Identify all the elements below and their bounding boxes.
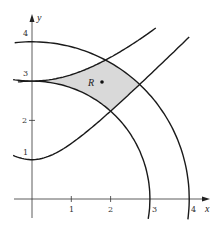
x-axis-arrow-icon [202,197,210,202]
x-tick-label-3: 3 [152,205,157,214]
region-diagram: x y 1 2 3 4 1 2 3 4 R [0,0,216,234]
x-tick-label-1: 1 [69,205,74,214]
region-label: R [87,77,94,88]
x-axis-label: x [204,203,210,214]
y-axis-arrow-icon [30,14,35,22]
x-tick-label-4: 4 [191,205,196,214]
y-tick-label-1: 1 [23,148,28,157]
y-tick-label-3: 3 [23,69,28,78]
region-point [100,80,104,84]
y-axis-label: y [36,12,42,23]
axis-ticks [29,120,111,202]
y-tick-label-4: 4 [23,29,28,38]
shaded-region-r [32,60,140,111]
circle-r3-curve [18,81,150,219]
y-tick-label-2: 2 [22,116,27,125]
x-tick-label-2: 2 [108,205,113,214]
